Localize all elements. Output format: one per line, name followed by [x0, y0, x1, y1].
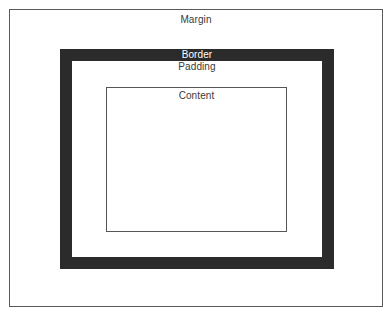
margin-label: Margin	[10, 14, 382, 26]
border-box: Border Padding Content	[60, 49, 334, 269]
content-label: Content	[107, 90, 286, 102]
margin-box: Margin Border Padding Content	[9, 9, 383, 307]
content-box: Content	[106, 87, 287, 232]
padding-label: Padding	[72, 61, 322, 73]
border-label: Border	[72, 49, 322, 61]
